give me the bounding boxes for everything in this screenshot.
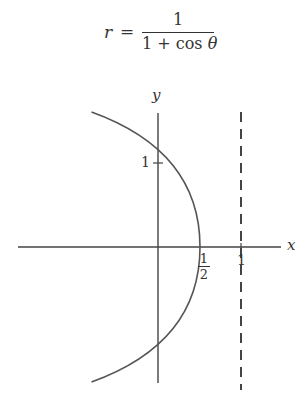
y-tick-label-1: 1 [141,154,150,170]
x-tick-label-1: 1 [237,252,246,268]
vertex-label-denominator: 2 [200,267,208,282]
plot-area [0,0,306,411]
vertex-label-half: 1 2 [198,252,210,281]
vertex-label-numerator: 1 [200,251,208,266]
x-axis-label: x [287,236,295,254]
y-axis-label: y [152,86,160,104]
